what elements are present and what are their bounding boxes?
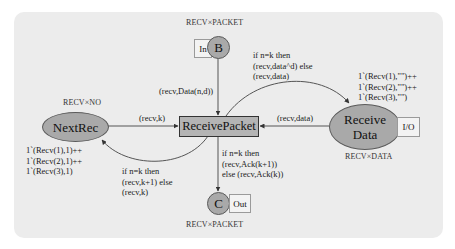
place-b-type: RECV×PACKET xyxy=(186,18,243,27)
place-receivedata-marking: 1`(Recv(1),"")++ 1`(Recv(2),"")++ 1`(Rec… xyxy=(358,71,417,103)
arc-receivepacket-to-receivedata xyxy=(226,81,349,116)
place-receivedata-type: RECV×DATA xyxy=(345,152,392,161)
place-receivedata[interactable]: Receive Data xyxy=(329,104,401,150)
arc-rp-to-rd-inscription: if n=k then (recv,data^d) else (recv,dat… xyxy=(253,50,313,82)
arc-rp-to-c-inscription: if n=k then (recv,Ack(k+1)) else (recv,A… xyxy=(222,148,283,180)
place-b[interactable]: B xyxy=(207,36,230,59)
place-nextrec[interactable]: NextRec xyxy=(42,112,109,142)
transition-receivepacket[interactable]: ReceivePacket xyxy=(179,116,259,137)
place-receivedata-label-line2: Data xyxy=(344,127,386,142)
arc-rp-to-nextrec-inscription: if n=k then (recv,k+1) else (recv,k) xyxy=(122,166,173,198)
arc-b-to-rp-inscription: (recv,Data(n,d)) xyxy=(159,86,213,97)
arc-rd-to-rp-inscription: (recv,data) xyxy=(277,113,313,124)
place-nextrec-label: NextRec xyxy=(53,120,98,135)
arc-nextrec-to-rp-inscription: (recv,k) xyxy=(139,113,165,124)
place-b-label: B xyxy=(214,40,223,56)
arc-receivepacket-to-nextrec xyxy=(102,136,208,161)
transition-receivepacket-label: ReceivePacket xyxy=(182,119,256,134)
place-nextrec-type: RECV×NO xyxy=(63,98,101,107)
place-c[interactable]: C xyxy=(207,192,230,215)
port-io-tag: I/O xyxy=(397,117,420,137)
place-c-label: C xyxy=(214,196,223,212)
place-receivedata-label-line1: Receive xyxy=(344,112,386,127)
place-c-type: RECV×PACKET xyxy=(186,220,243,229)
port-out-tag: Out xyxy=(229,194,251,213)
place-nextrec-marking: 1`(Recv(1),1)++ 1`(Recv(2),1)++ 1`(Recv(… xyxy=(26,145,82,177)
